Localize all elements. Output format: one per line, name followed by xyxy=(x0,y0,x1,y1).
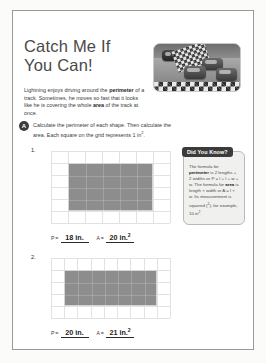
intro-paragraph: Lightning enjoys driving around the peri… xyxy=(24,87,146,117)
grid-line-horizontal xyxy=(51,318,170,319)
grid-line-horizontal xyxy=(51,223,170,224)
problem-1-perimeter-answer[interactable]: 18 in. xyxy=(61,234,89,243)
problem-2-grid-area xyxy=(51,258,170,318)
page-title-line-1: Catch Me If xyxy=(24,37,154,56)
shape-grid-line-vertical xyxy=(145,271,146,307)
shape-grid-line-vertical xyxy=(131,271,132,307)
problem-2-perimeter-equals: = xyxy=(54,330,59,336)
problem-1-area-value: 20 in. xyxy=(109,233,127,242)
problem-1-area-equals: = xyxy=(100,235,105,241)
dyk-text-1: The formula for xyxy=(189,164,219,169)
task-badge-a: A xyxy=(19,121,29,131)
page-title-line-2: You Can! xyxy=(24,56,154,75)
did-you-know-box: Did You Know? The formula for perimeter … xyxy=(183,151,245,225)
problem-2-answers: P=20 in.A=21 in.2 xyxy=(51,326,135,338)
problem-1-grid-area xyxy=(51,151,170,223)
photo-car-3 xyxy=(216,68,237,81)
problem-2-area-value: 21 in. xyxy=(109,328,127,337)
dyk-text-5: . xyxy=(200,212,201,217)
problem-1-shaded-rectangle xyxy=(68,163,153,211)
dyk-bold-perimeter: perimeter xyxy=(189,170,209,175)
task-text-end: . xyxy=(143,132,145,138)
checkered-border-icon xyxy=(154,82,240,91)
worksheet-page: Catch Me If You Can! Lightning enjoys dr… xyxy=(12,10,254,350)
shape-grid-line-horizontal xyxy=(65,295,158,296)
did-you-know-banner: Did You Know? xyxy=(182,147,233,157)
problem-2-number: 2. xyxy=(31,254,36,260)
shape-grid-line-vertical xyxy=(105,271,106,307)
shape-grid-line-horizontal xyxy=(69,200,154,201)
grid-line-vertical xyxy=(170,258,171,318)
shape-grid-line-horizontal xyxy=(69,188,154,189)
photo-car-windshield xyxy=(165,52,171,56)
task-instruction-text: Calculate the perimeter of each shape. T… xyxy=(33,122,175,140)
grid-line-horizontal xyxy=(51,306,170,307)
grid-line-vertical xyxy=(157,258,158,318)
intro-text-1: Lightning enjoys driving around the xyxy=(24,87,109,93)
problem-2-area-equals: = xyxy=(100,330,105,336)
grid-line-vertical xyxy=(51,258,52,318)
problem-1-perimeter-equals: = xyxy=(54,235,59,241)
problem-1-area-superscript: 2 xyxy=(128,232,131,238)
dyk-bold-area: area xyxy=(225,182,234,187)
problem-2-perimeter-answer[interactable]: 20 in. xyxy=(61,329,89,338)
grid-line-horizontal xyxy=(51,211,170,212)
scanned-page-background: Catch Me If You Can! Lightning enjoys dr… xyxy=(0,0,266,363)
task-text-main: Calculate the perimeter of each shape. T… xyxy=(33,122,171,138)
problem-1-area-answer[interactable]: 20 in.2 xyxy=(106,231,134,243)
shape-grid-line-horizontal xyxy=(65,283,158,284)
did-you-know-body: The formula for perimeter is 2 lengths +… xyxy=(189,164,239,218)
shape-grid-line-horizontal xyxy=(69,176,154,177)
photo-car-windshield xyxy=(205,60,217,64)
photo-car-1 xyxy=(184,66,206,79)
grid-line-horizontal xyxy=(51,258,170,259)
page-title: Catch Me If You Can! xyxy=(24,37,154,75)
problem-1-number: 1. xyxy=(31,147,36,153)
shape-grid-line-vertical xyxy=(118,271,119,307)
shape-grid-line-vertical xyxy=(92,271,93,307)
problem-2-area-answer[interactable]: 21 in.2 xyxy=(106,326,134,338)
intro-bold-perimeter: perimeter xyxy=(109,87,134,93)
grid-line-vertical xyxy=(170,151,171,223)
problem-2-area-superscript: 2 xyxy=(128,327,131,333)
problem-2-shaded-rectangle xyxy=(64,270,157,306)
grid-line-horizontal xyxy=(51,151,170,152)
race-cars-photo xyxy=(153,43,241,92)
problem-1-answers: P=18 in.A=20 in.2 xyxy=(51,231,135,243)
photo-car-windshield xyxy=(187,68,200,72)
shape-grid-line-vertical xyxy=(78,271,79,307)
intro-bold-area: area xyxy=(93,102,104,108)
photo-car-windshield xyxy=(219,70,231,74)
